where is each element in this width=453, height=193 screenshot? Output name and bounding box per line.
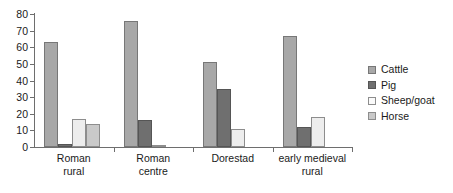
category-label: Romanrural — [34, 152, 114, 177]
bar-pig-2 — [217, 89, 231, 147]
bar-pig-1 — [138, 120, 152, 147]
legend-label-cattle: Cattle — [381, 64, 408, 75]
y-tick-label: 10 — [6, 125, 28, 135]
bar-group — [34, 14, 114, 147]
legend-item-cattle[interactable]: Cattle — [368, 62, 453, 78]
category-label: early medievalrural — [273, 152, 353, 177]
bar-group — [273, 14, 353, 147]
bar-cattle-0 — [44, 42, 58, 147]
legend-swatch-cattle-icon — [368, 66, 376, 74]
y-tick-label: 20 — [6, 109, 28, 119]
category-label-line: centre — [114, 165, 194, 178]
category-label-line: Roman — [34, 152, 114, 165]
chart-legend: Cattle Pig Sheep/goat Horse — [368, 62, 453, 124]
bar-cattle-3 — [283, 36, 297, 147]
category-label-line: rural — [273, 165, 353, 178]
y-tick-label: 60 — [6, 42, 28, 52]
bar-sheep-goat-3 — [311, 117, 325, 147]
category-label-line: Roman — [114, 152, 194, 165]
bar-pig-0 — [58, 144, 72, 147]
category-label-line: early medieval — [273, 152, 353, 165]
legend-label-pig: Pig — [381, 80, 396, 91]
x-tick-mark-end — [352, 148, 353, 152]
bar-sheep-goat-1 — [152, 145, 166, 147]
legend-swatch-horse-icon — [368, 112, 376, 120]
legend-item-sheep-goat[interactable]: Sheep/goat — [368, 93, 453, 109]
y-tick-label: 80 — [6, 9, 28, 19]
y-tick-label: 40 — [6, 76, 28, 86]
bar-group — [193, 14, 273, 147]
y-tick-label: 30 — [6, 92, 28, 102]
legend-label-sheep-goat: Sheep/goat — [381, 95, 435, 106]
bar-sheep-goat-2 — [231, 129, 245, 147]
bar-cattle-2 — [203, 62, 217, 147]
category-label-line: rural — [34, 165, 114, 178]
bar-chart-figure: 80706050403020100 RomanruralRomancentreD… — [0, 0, 453, 193]
bar-cattle-1 — [124, 21, 138, 147]
bar-pig-3 — [297, 127, 311, 147]
legend-swatch-sheep-goat-icon — [368, 97, 376, 105]
bar-horse-0 — [86, 124, 100, 147]
category-label: Dorestad — [193, 152, 273, 165]
category-label-line: Dorestad — [193, 152, 273, 165]
bar-sheep-goat-0 — [72, 119, 86, 147]
y-tick-label: 0 — [6, 142, 28, 152]
legend-item-horse[interactable]: Horse — [368, 109, 453, 125]
bar-group — [114, 14, 194, 147]
legend-label-horse: Horse — [381, 111, 409, 122]
legend-swatch-pig-icon — [368, 81, 376, 89]
legend-item-pig[interactable]: Pig — [368, 78, 453, 94]
y-tick-label: 50 — [6, 59, 28, 69]
category-label: Romancentre — [114, 152, 194, 177]
y-tick-label: 70 — [6, 26, 28, 36]
